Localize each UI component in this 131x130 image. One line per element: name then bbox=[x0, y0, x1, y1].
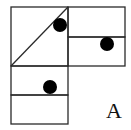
top-right-lower-cell bbox=[68, 37, 125, 66]
diagonal-line bbox=[11, 7, 68, 66]
top-right-upper-cell bbox=[68, 7, 125, 37]
dot-top-right bbox=[100, 37, 114, 51]
dot-bottom-left bbox=[43, 80, 57, 94]
bottom-left-upper-cell bbox=[11, 66, 68, 95]
dot-top-left bbox=[53, 18, 67, 32]
bottom-left-lower-cell bbox=[11, 95, 68, 124]
figure-label: A bbox=[106, 100, 122, 122]
